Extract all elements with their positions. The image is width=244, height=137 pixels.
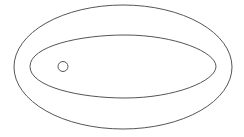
outer-ellipse [14,5,232,129]
nested-ellipses-diagram [0,0,244,137]
small-circle [58,62,68,72]
